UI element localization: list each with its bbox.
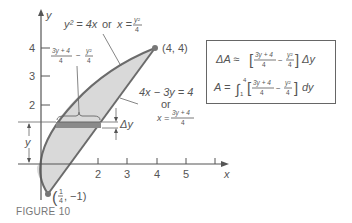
parabola-alt-den: 4 [135, 26, 139, 33]
delta-y-arrow-up-icon [114, 128, 118, 133]
x-axis-arrow-icon [221, 161, 229, 167]
parabola-leader [103, 34, 121, 66]
line-or: or [161, 98, 171, 110]
parabola-or: or [102, 18, 112, 30]
y-tick-3: 3 [29, 70, 35, 82]
y-height-arrow-down-icon [27, 158, 31, 163]
point-bottom-den: 4 [59, 197, 63, 204]
area-strip [56, 122, 101, 128]
parabola-alt-num: y² [133, 16, 141, 24]
point-bottom-rest: , −1) [64, 190, 86, 202]
line-alt-den: 4 [181, 119, 185, 126]
point-bottom [45, 191, 51, 197]
strip-height-label: Δy [119, 118, 134, 130]
line-alt-lhs: x = [156, 113, 169, 123]
strip-num1: 3y + 4 [52, 47, 70, 55]
point-top-label: (4, 4) [162, 42, 188, 54]
figure-canvas: 4 3 2 2 3 4 5 y x (4, 4) ( 1 4 , −1) y² … [0, 0, 352, 223]
x-tick-4: 4 [154, 168, 160, 180]
line-leader [120, 98, 138, 104]
strip-minus: − [76, 51, 81, 60]
strip-den2: 4 [87, 57, 91, 64]
y-height-arrow-up-icon [27, 123, 31, 128]
delta-y-arrow-down-icon [114, 117, 118, 122]
point-bottom-open: ( [52, 189, 58, 206]
point-top [152, 45, 158, 51]
x-tick-5: 5 [183, 168, 189, 180]
strip-num2: y² [85, 47, 92, 55]
strip-den1: 4 [59, 57, 63, 64]
figure-caption: FIGURE 10 [16, 206, 70, 217]
parabola-alt-lhs: x = [116, 18, 133, 30]
line-alt-num: 3y + 4 [172, 109, 190, 117]
point-bottom-num: 1 [59, 188, 63, 195]
x-axis-label: x [223, 168, 230, 180]
formula-box [206, 40, 336, 104]
y-tick-2: 2 [29, 99, 35, 111]
y-tick-4: 4 [29, 42, 35, 54]
parabola-eq: y² = 4x [63, 18, 98, 30]
y-axis-arrow-icon [38, 9, 44, 16]
line-eq: 4x − 3y = 4 [139, 86, 193, 98]
x-tick-2: 2 [95, 168, 101, 180]
y-axis-label: y [45, 9, 53, 21]
x-tick-3: 3 [124, 168, 130, 180]
